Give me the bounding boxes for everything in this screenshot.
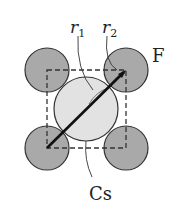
cation-label: Cs [89, 183, 112, 204]
csf-unit-cell-diagram: r1 r2 F Cs [0, 0, 182, 212]
r2-label: r2 [102, 17, 117, 40]
cs-leader [86, 141, 92, 177]
r1-label: r1 [70, 17, 85, 40]
anion-label: F [152, 45, 165, 66]
